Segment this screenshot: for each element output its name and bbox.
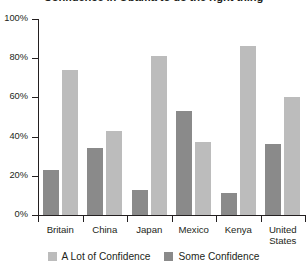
y-axis-tick (32, 97, 38, 98)
x-axis-tick (172, 216, 173, 222)
bar (62, 70, 78, 215)
y-axis-line (38, 19, 39, 216)
x-axis-tick (83, 216, 84, 222)
legend-entry[interactable]: Some Confidence (164, 251, 259, 262)
y-axis-tick-label: 20% (0, 171, 28, 180)
y-axis-tick-label: 60% (0, 92, 28, 101)
bar (87, 148, 103, 215)
y-axis-tick-label: 0% (0, 210, 28, 219)
y-axis-tick-label: 40% (0, 132, 28, 141)
y-axis-tick-label: 80% (0, 53, 28, 62)
x-axis-tick (38, 216, 39, 222)
bar (151, 56, 167, 215)
x-axis-category-label: Japan (127, 224, 172, 235)
x-axis-category-label: United States (261, 224, 306, 246)
legend-label: Some Confidence (178, 251, 259, 262)
bar (221, 193, 237, 215)
bar (240, 46, 256, 215)
y-axis-tick (32, 19, 38, 20)
bar (265, 144, 281, 215)
legend-entry[interactable]: A Lot of Confidence (48, 251, 151, 262)
chart-figure: Confidence in Obama to do the right thin… (0, 0, 307, 268)
chart-title: Confidence in Obama to do the right thin… (0, 0, 307, 3)
bar (284, 97, 300, 215)
chart-legend: A Lot of ConfidenceSome Confidence (0, 251, 307, 262)
legend-swatch-icon (164, 252, 173, 261)
x-axis-tick (305, 216, 306, 222)
x-axis-line (32, 215, 306, 216)
bar (43, 170, 59, 215)
x-axis-category-label: Britain (38, 224, 83, 235)
bar (195, 142, 211, 215)
x-axis-category-label: China (83, 224, 128, 235)
x-axis-category-label: Mexico (172, 224, 217, 235)
y-axis-tick (32, 137, 38, 138)
bar (176, 111, 192, 215)
x-axis-tick (261, 216, 262, 222)
bar (132, 190, 148, 215)
bar (106, 131, 122, 215)
x-axis-tick (127, 216, 128, 222)
legend-label: A Lot of Confidence (62, 251, 151, 262)
y-axis-tick (32, 58, 38, 59)
x-axis-category-label: Kenya (216, 224, 261, 235)
y-axis-tick (32, 176, 38, 177)
y-axis-tick-label: 100% (0, 14, 28, 23)
legend-swatch-icon (48, 252, 57, 261)
x-axis-tick (216, 216, 217, 222)
